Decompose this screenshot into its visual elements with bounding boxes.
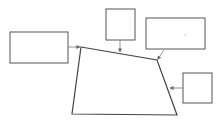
quadrilateral-shape [72,47,177,115]
box-top-right-mark [184,34,185,35]
annotation-box-left[interactable] [10,32,68,63]
connector-top-right-to-vertex [158,50,165,60]
diagram-canvas [0,0,216,126]
annotation-box-right[interactable] [183,73,212,103]
annotation-box-top-right[interactable] [146,18,205,49]
annotation-box-top-middle[interactable] [106,9,135,40]
